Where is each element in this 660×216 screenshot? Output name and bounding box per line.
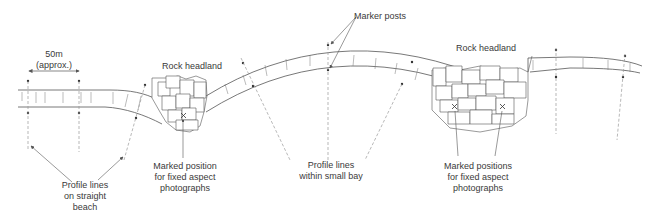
marker-posts-left bbox=[27, 80, 146, 119]
marked-position-label: Marked position for fixed aspect photogr… bbox=[150, 161, 220, 194]
right-beach bbox=[528, 57, 642, 73]
marker-posts-label: Marker posts bbox=[350, 11, 410, 22]
marker-posts-bay bbox=[242, 44, 413, 87]
profile-lines-right bbox=[556, 48, 625, 140]
marked-positions-label: Marked positions for fixed aspect photog… bbox=[440, 161, 516, 194]
profile-lines-straight bbox=[28, 81, 145, 160]
straight-beach bbox=[18, 90, 162, 124]
coastal-diagram: 50m (approx.) Rock headland Marker posts… bbox=[0, 0, 660, 216]
profile-straight-label: Profile lines on straight beach bbox=[55, 180, 115, 213]
profile-bay-label: Profile lines within small bay bbox=[296, 160, 366, 182]
bay-beach bbox=[206, 51, 470, 112]
rock-headland-right bbox=[432, 56, 532, 132]
profile-lines-bay bbox=[241, 42, 402, 160]
rock-headland-right-label: Rock headland bbox=[446, 43, 526, 54]
rock-headland-left bbox=[152, 76, 207, 132]
marker-posts-right bbox=[555, 49, 626, 78]
scale-label: 50m (approx.) bbox=[34, 49, 74, 71]
rock-headland-left-label: Rock headland bbox=[152, 61, 232, 72]
